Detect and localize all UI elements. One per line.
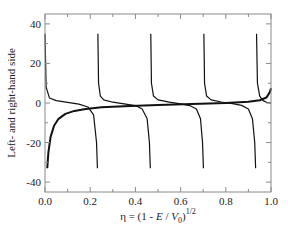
y-axis-label: Left- and right-hand side — [5, 48, 17, 158]
y-tick-label: 0 — [36, 97, 42, 109]
x-axis-label-sup: 1/2 — [186, 207, 196, 216]
x-axis-label: η = (1 - E / V0)1/2 — [120, 207, 196, 225]
x-tick-label: 0.4 — [129, 195, 143, 207]
x-axis-label-slash: / — [163, 210, 172, 222]
y-tick-label: 40 — [30, 18, 42, 30]
x-tick-label: 0.2 — [83, 195, 97, 207]
x-tick-label: 0.6 — [174, 195, 188, 207]
plot-lines — [45, 34, 271, 168]
x-tick-labels: 0.00.20.40.60.81.0 — [38, 195, 278, 207]
y-tick-label: -20 — [26, 137, 41, 149]
lhs-branch-curve — [151, 34, 204, 168]
x-tick-label: 1.0 — [264, 195, 278, 207]
lhs-branch-curve — [98, 34, 150, 168]
y-tick-label: -40 — [26, 176, 41, 188]
x-tick-label: 0.8 — [219, 195, 233, 207]
y-tick-label: 20 — [30, 57, 42, 69]
x-axis-label-main: η = (1 - — [120, 210, 156, 223]
y-tick-labels: -40-2002040 — [26, 18, 41, 188]
x-tick-label: 0.0 — [38, 195, 52, 207]
lhs-branch-curve — [45, 34, 97, 168]
chart: 0.00.20.40.60.81.0 -40-2002040 Left- and… — [0, 0, 288, 230]
